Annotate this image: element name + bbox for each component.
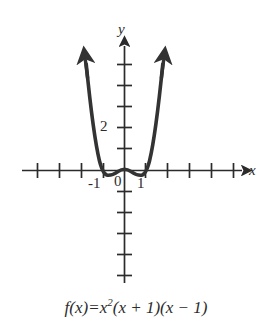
caption-function-name: f(x)	[65, 298, 89, 317]
caption-equals: =	[88, 298, 100, 317]
y-tick-label-2: 2	[100, 119, 108, 134]
right-branch-arrow	[161, 61, 163, 79]
caption-factor-two: (x − 1)	[160, 298, 207, 317]
polynomial-graph-figure: y x 2 -1 0 1 f(x)=x2(x + 1)(x − 1)	[0, 0, 272, 334]
origin-label: 0	[114, 174, 122, 189]
coordinate-plane-svg	[0, 0, 272, 334]
x-tick-label-1: 1	[137, 176, 145, 191]
caption-factor-one: (x + 1)	[113, 298, 160, 317]
y-axis-label: y	[118, 22, 125, 37]
x-axis-label: x	[249, 163, 256, 178]
x-tick-label-negative-1: -1	[88, 176, 101, 191]
left-branch-arrow	[85, 61, 87, 79]
y-axis	[117, 46, 132, 283]
function-caption: f(x)=x2(x + 1)(x − 1)	[0, 296, 272, 317]
